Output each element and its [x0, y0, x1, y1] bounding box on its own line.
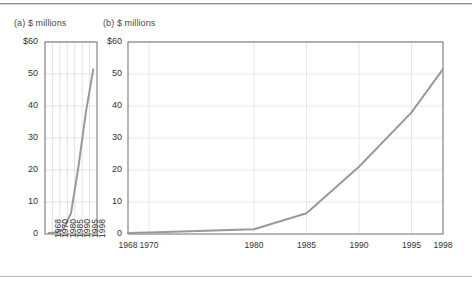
data-series-line	[49, 69, 94, 233]
y-axis-tick-label: 30	[100, 132, 122, 142]
y-axis-tick-label: 20	[100, 164, 122, 174]
y-axis-tick-label: 0	[100, 228, 122, 238]
x-axis-tick-label: 1995	[397, 240, 427, 250]
x-axis-tick-label: 1998	[428, 240, 458, 250]
chart-panel-b: $605040302010019681970198019851990199519…	[100, 34, 472, 274]
y-axis-tick-label: 50	[100, 68, 122, 78]
panel-b-caption: (b) $ millions	[103, 18, 155, 28]
data-series-line	[128, 69, 443, 233]
panel-b-plot	[100, 34, 472, 274]
y-axis-tick-label: 10	[100, 196, 122, 206]
x-axis-tick-label: 1985	[292, 240, 322, 250]
x-axis-tick-label: 1990	[344, 240, 374, 250]
chart-panel-a: $605040302010019681970198019851990199519…	[0, 34, 104, 274]
x-axis-tick-label: 1970	[134, 240, 164, 250]
y-axis-tick-label: 40	[100, 100, 122, 110]
panel-a-caption: (a) $ millions	[14, 18, 66, 28]
y-axis-tick-label: 40	[4, 100, 38, 110]
y-axis-tick-label: $60	[100, 36, 122, 46]
x-axis-tick-label: 1980	[239, 240, 269, 250]
chart-page: (a) $ millions (b) $ millions $605040302…	[0, 0, 472, 285]
y-axis-tick-label: 30	[4, 132, 38, 142]
y-axis-tick-label: 0	[4, 228, 38, 238]
y-axis-tick-label: 10	[4, 196, 38, 206]
bottom-divider	[0, 276, 472, 277]
y-axis-tick-label: 20	[4, 164, 38, 174]
y-axis-tick-label: 50	[4, 68, 38, 78]
top-divider-shadow	[0, 4, 472, 5]
y-axis-tick-label: $60	[4, 36, 38, 46]
